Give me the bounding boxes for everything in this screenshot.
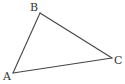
edge-ab xyxy=(13,13,40,73)
vertex-labels: A B C xyxy=(2,1,122,83)
vertex-label-a: A xyxy=(2,70,12,83)
triangle-edges xyxy=(13,13,112,73)
edge-ca xyxy=(13,58,112,73)
edge-bc xyxy=(40,13,112,58)
vertex-label-c: C xyxy=(114,54,122,67)
triangle-diagram: A B C xyxy=(0,0,125,84)
vertex-label-b: B xyxy=(30,1,38,14)
